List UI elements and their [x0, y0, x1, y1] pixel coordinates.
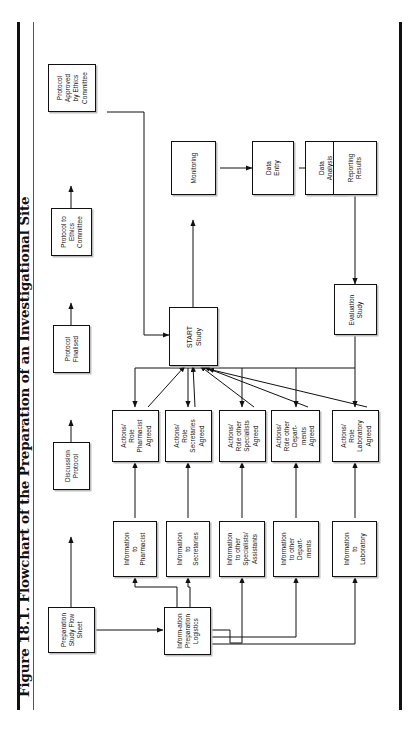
node-label: Evaluation Study [347, 294, 363, 325]
node-data-entry: Data Entry [252, 141, 294, 195]
node-actions-role-other-specialists: Actions/ Role other Specialists Agreed [219, 410, 266, 462]
node-label: Actions/ Role other Specialists Agreed [226, 420, 259, 452]
node-preparation-study-flow-sheet: Preparation Study Flow Sheet [48, 607, 95, 653]
node-actions-role-secretaries: Actions/ Role Secretaries Agreed [165, 410, 212, 462]
node-actions-role-pharmacist: Actions/ Role Pharmacist Agreed [112, 410, 159, 462]
node-label: Monitoring [189, 153, 197, 184]
frame-rule-right [399, 22, 402, 710]
node-information-to-pharmacist: Information to Pharmacist [113, 521, 157, 577]
node-label: Protocol Approved by Ethics Committee [56, 72, 89, 104]
node-label: Actions/ Role Laboratory Agreed [339, 420, 372, 452]
node-evaluation-study: Evaluation Study [334, 284, 377, 335]
node-label: Protocol Finalised [63, 336, 79, 362]
node-reporting-results: Reporting Results [333, 141, 377, 195]
node-label: Information to other Depart- ments [280, 532, 313, 565]
node-information-preparation-logistics: Inform-ation Preparation Logistics [164, 607, 211, 655]
figure-title: Figure 18.1. Flowchart of the Preparatio… [13, 9, 35, 699]
node-actions-role-laboratory: Actions/ Role Laboratory Agreed [332, 410, 379, 462]
node-actions-role-other-departments: Actions/ Role other Depart- ments Agreed [271, 410, 320, 462]
node-monitoring: Monitoring [171, 141, 216, 195]
figure-page: Figure 18.1. Flowchart of the Preparatio… [0, 0, 419, 732]
node-start-study: START Study [169, 307, 218, 366]
node-label: Data Analysis [318, 156, 334, 181]
node-information-to-other-departments: Information to other Depart- ments [273, 521, 319, 577]
node-information-to-secretaries: Information to Secretaries [166, 521, 210, 577]
node-label: Reporting Results [347, 154, 363, 183]
node-label: Information to Laboratory [342, 532, 367, 565]
node-protocol-finalised: Protocol Finalised [53, 325, 90, 373]
node-label: Actions/ Role other Depart- ments Agreed [275, 421, 316, 452]
node-label: Discussion Protocol [63, 450, 79, 482]
node-label: Inform-ation Preparation Logistics [175, 613, 200, 648]
node-information-to-other-specialists: Information to other Specialists/ Assist… [219, 521, 265, 577]
node-discussion-protocol: Discussion Protocol [53, 442, 90, 490]
flowchart-canvas: Protocol Approved by Ethics Committee Pr… [40, 22, 399, 710]
node-label: Actions/ Role Secretaries Agreed [172, 419, 205, 452]
node-protocol-to-ethics: Protocol to Ethics Committee [51, 208, 92, 256]
node-label: Actions/ Role Pharmacist Agreed [119, 420, 152, 453]
node-label: Information to Secretaries [176, 532, 201, 565]
node-information-to-laboratory: Information to Laboratory [332, 521, 377, 577]
node-label: START Study [185, 325, 203, 347]
node-label: Preparation Study Flow Sheet [59, 613, 84, 647]
node-protocol-approved: Protocol Approved by Ethics Committee [48, 64, 96, 112]
node-label: Protocol to Ethics Committee [59, 216, 84, 248]
node-label: Information to Pharmacist [123, 532, 148, 565]
node-label: Information to other Specialists/ Assist… [226, 532, 259, 566]
node-label: Data Entry [265, 160, 281, 175]
